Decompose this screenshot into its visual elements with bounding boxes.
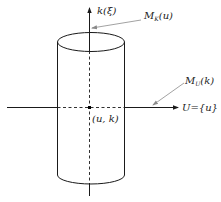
origin-point xyxy=(88,106,91,109)
mk-pointer-arrow xyxy=(92,20,141,28)
horizontal-axis-label: U={u} xyxy=(182,102,218,113)
point-label: (u, k) xyxy=(92,113,119,124)
cylinder-bottom-arc xyxy=(58,175,125,184)
mu-label: MU(k) xyxy=(184,75,214,87)
cylinder-top-ellipse xyxy=(58,33,125,52)
mk-label: MK(u) xyxy=(143,10,173,22)
mu-pointer-arrow xyxy=(153,83,184,105)
vertical-axis-label: k(ξ) xyxy=(97,5,116,16)
cylinder-diagram: k(ξ) MK(u) MU(k) U={u} (u, k) xyxy=(0,0,221,202)
